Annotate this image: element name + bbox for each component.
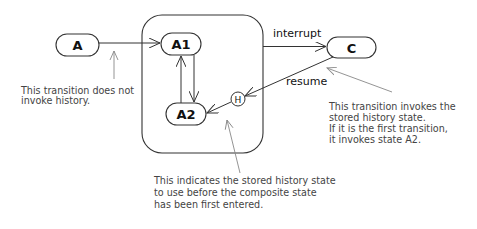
state-a: A bbox=[56, 34, 99, 56]
history-label: H bbox=[235, 95, 242, 105]
svg-text:If it is the first transition,: If it is the first transition, bbox=[329, 123, 448, 134]
state-a-label: A bbox=[72, 38, 82, 53]
svg-text:stored history state.: stored history state. bbox=[329, 112, 426, 123]
pointer-invokes-history bbox=[327, 68, 392, 92]
interrupt-label: interrupt bbox=[273, 27, 322, 40]
state-a2: A2 bbox=[166, 103, 206, 125]
svg-text:to use before the composite st: to use before the composite state bbox=[154, 187, 317, 198]
resume-label: resume bbox=[286, 75, 327, 88]
note-default-history: This indicates the stored history state … bbox=[153, 175, 336, 210]
svg-text:has been first entered.: has been first entered. bbox=[154, 199, 263, 210]
state-diagram: A A1 A2 C H interrupt resume This transi… bbox=[0, 0, 477, 229]
svg-text:invoke history.: invoke history. bbox=[21, 95, 90, 106]
transition-history-to-a2 bbox=[207, 102, 231, 113]
pointer-default-history bbox=[227, 120, 240, 173]
history-pseudostate: H bbox=[231, 92, 245, 106]
svg-text:This indicates the stored hist: This indicates the stored history state bbox=[153, 175, 336, 186]
svg-text:it invokes state A2.: it invokes state A2. bbox=[329, 134, 421, 145]
svg-text:This transition invokes the: This transition invokes the bbox=[328, 101, 456, 112]
state-a1: A1 bbox=[161, 33, 201, 55]
composite-state bbox=[142, 15, 263, 153]
state-a1-label: A1 bbox=[171, 37, 190, 52]
note-invokes-history: This transition invokes the stored histo… bbox=[328, 101, 456, 145]
note-no-history: This transition does not invoke history. bbox=[20, 85, 134, 106]
state-c: C bbox=[327, 37, 376, 58]
state-c-label: C bbox=[347, 41, 357, 56]
state-a2-label: A2 bbox=[176, 107, 195, 122]
